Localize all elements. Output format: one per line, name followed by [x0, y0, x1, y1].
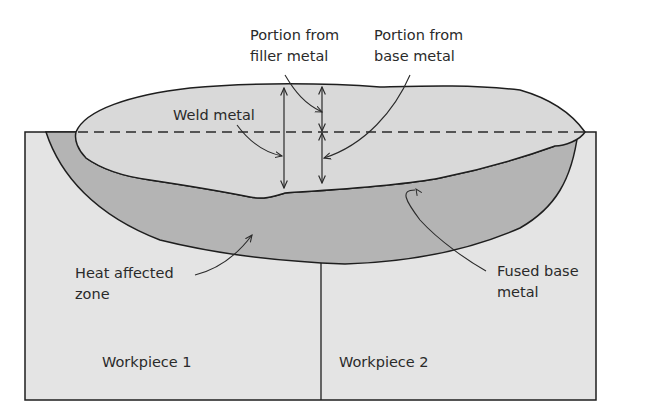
- label-workpiece-1: Workpiece 1: [102, 354, 192, 370]
- label-haz-line1: Heat affected: [75, 265, 174, 281]
- label-fused-base-line1: Fused base: [497, 263, 579, 279]
- label-workpiece-2: Workpiece 2: [339, 354, 429, 370]
- label-base-portion-line1: Portion from: [374, 27, 463, 43]
- label-haz-line2: zone: [75, 286, 110, 302]
- label-fused-base-line2: metal: [497, 284, 539, 300]
- label-base-portion-line2: base metal: [374, 48, 455, 64]
- label-filler-portion-line1: Portion from: [250, 27, 339, 43]
- weld-cross-section-diagram: Portion from filler metal Portion from b…: [0, 0, 646, 420]
- label-filler-portion-line2: filler metal: [250, 48, 328, 64]
- label-weld-metal: Weld metal: [173, 107, 255, 123]
